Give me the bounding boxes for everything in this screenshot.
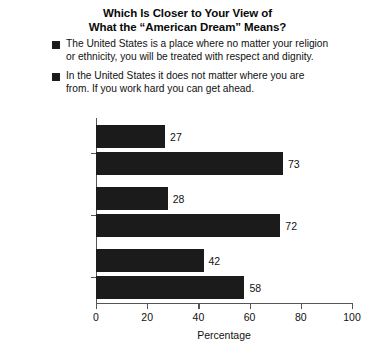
- bar-democrat-series-1: [96, 249, 204, 272]
- legend-label-series-2-line-1: In the United States it does not matter …: [66, 70, 304, 83]
- x-tick-label-100: 100: [343, 311, 361, 323]
- bar-value-independent-series-1: 27: [170, 131, 182, 143]
- bar-democrat-series-2: [96, 276, 244, 299]
- plot-area: Independent 27 73 Republican 28 72: [96, 118, 352, 303]
- x-tick-label-40: 40: [193, 311, 205, 323]
- x-axis-line: [96, 303, 353, 304]
- x-tick-60: [250, 304, 251, 309]
- legend-label-series-1-line-1: The United States is a place where no ma…: [66, 38, 328, 51]
- chart-title-line-1: Which Is Closer to Your View of: [0, 6, 375, 20]
- x-tick-100: [352, 304, 353, 309]
- bar-value-republican-series-1: 28: [173, 193, 185, 205]
- chart-title: Which Is Closer to Your View of What the…: [0, 6, 375, 34]
- legend-square-icon-series-1: [52, 41, 60, 49]
- bar-value-republican-series-2: 72: [285, 220, 297, 232]
- legend-square-icon-series-2: [52, 73, 60, 81]
- bar-value-independent-series-2: 73: [288, 158, 300, 170]
- x-tick-40: [198, 304, 199, 309]
- legend-item-work-hard-get-ahead: In the United States it does not matter …: [52, 70, 352, 95]
- legend-label-series-2-line-2: from. If you work hard you can get ahead…: [66, 83, 304, 96]
- x-tick-label-0: 0: [93, 311, 99, 323]
- bar-republican-series-1: [96, 187, 168, 210]
- bar-republican-series-2: [96, 214, 280, 237]
- chart-title-line-2: What the “American Dream” Means?: [0, 20, 375, 34]
- chart-figure: Which Is Closer to Your View of What the…: [0, 0, 375, 363]
- x-tick-20: [147, 304, 148, 309]
- legend-label-series-2: In the United States it does not matter …: [66, 70, 304, 95]
- x-tick-label-80: 80: [295, 311, 307, 323]
- bar-value-democrat-series-2: 58: [249, 282, 261, 294]
- bar-value-democrat-series-1: 42: [209, 255, 221, 267]
- bar-independent-series-2: [96, 152, 283, 175]
- legend-label-series-1: The United States is a place where no ma…: [66, 38, 328, 63]
- x-tick-label-60: 60: [244, 311, 256, 323]
- x-tick-80: [301, 304, 302, 309]
- legend-item-respect-dignity: The United States is a place where no ma…: [52, 38, 352, 63]
- x-tick-0: [96, 304, 97, 309]
- legend-label-series-1-line-2: or ethnicity, you will be treated with r…: [66, 51, 328, 64]
- x-tick-label-20: 20: [141, 311, 153, 323]
- chart-legend: The United States is a place where no ma…: [52, 38, 352, 102]
- x-axis-title: Percentage: [96, 329, 352, 341]
- bar-independent-series-1: [96, 125, 165, 148]
